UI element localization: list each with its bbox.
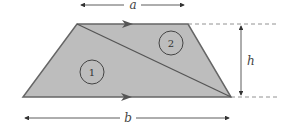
region-2-label: 2	[168, 38, 174, 49]
dimension-h: h	[241, 26, 255, 95]
label-h: h	[247, 54, 255, 68]
dimension-a: a	[81, 0, 184, 12]
region-1-label: 1	[89, 67, 95, 78]
trapezoid-diagram: 1 2 a b h	[0, 0, 289, 132]
dimension-b: b	[25, 111, 229, 125]
label-a: a	[129, 0, 136, 12]
label-b: b	[124, 111, 132, 125]
trapezoid-shape	[23, 24, 231, 97]
